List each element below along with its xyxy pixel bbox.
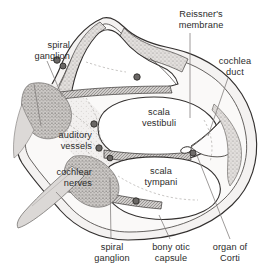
label-bony-otic-capsule: bony oticcapsule bbox=[142, 242, 200, 263]
label-cochlear-nerves: cochlearnerves bbox=[22, 167, 92, 188]
auditory-vessel-dot bbox=[91, 121, 97, 127]
label-line: ganglion bbox=[8, 51, 70, 62]
label-spiral-ganglion-top: spiralganglion bbox=[8, 40, 70, 61]
label-line: cochlear bbox=[22, 167, 92, 178]
label-line: duct bbox=[204, 67, 266, 78]
label-line: auditory bbox=[28, 130, 92, 141]
label-spiral-ganglion-bottom: spiralganglion bbox=[84, 242, 140, 263]
label-line: ganglion bbox=[84, 253, 140, 264]
label-organ-of-corti: organ ofCorti bbox=[202, 242, 258, 263]
label-line: spiral bbox=[8, 40, 70, 51]
label-line: nerves bbox=[22, 178, 92, 189]
auditory-vessel-dot bbox=[134, 74, 140, 80]
label-line: cochlea bbox=[204, 56, 266, 67]
auditory-vessel-dot bbox=[60, 63, 66, 69]
label-line: organ of bbox=[202, 242, 258, 253]
label-line: Reissner's bbox=[158, 9, 244, 20]
label-line: scala bbox=[128, 107, 190, 118]
label-reissners-membrane: Reissner'smembrane bbox=[158, 9, 244, 30]
apical-turn-chamber bbox=[56, 22, 188, 96]
auditory-vessel-dot bbox=[96, 145, 102, 151]
label-line: bony otic bbox=[142, 242, 200, 253]
label-line: membrane bbox=[158, 20, 244, 31]
label-line: Corti bbox=[202, 253, 258, 264]
label-line: scala bbox=[130, 166, 192, 177]
label-auditory-vessels: auditoryvessels bbox=[28, 130, 92, 151]
auditory-vessel-dot bbox=[133, 198, 139, 204]
label-cochlea-duct: cochleaduct bbox=[204, 56, 266, 77]
label-line: vessels bbox=[28, 141, 92, 152]
label-scala-vestibuli: scalavestibuli bbox=[128, 107, 190, 128]
cochlea-diagram-figure: spiralganglionReissner'smembranecochlead… bbox=[0, 0, 269, 276]
label-line: spiral bbox=[84, 242, 140, 253]
label-scala-tympani: scalatympani bbox=[130, 166, 192, 187]
auditory-vessel-dot bbox=[107, 155, 113, 161]
label-line: capsule bbox=[142, 253, 200, 264]
label-line: vestibuli bbox=[128, 118, 190, 129]
label-line: tympani bbox=[130, 177, 192, 188]
